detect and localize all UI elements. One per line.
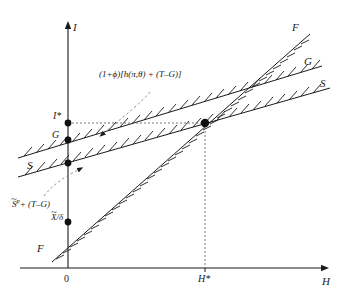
point-label-i-star: I*: [53, 111, 61, 121]
axis-x-tick-h-star: H*: [198, 274, 210, 284]
marker-equilibrium-point: [201, 119, 209, 127]
figure-canvas: I H 0 H* I* G F G S S F (1+ϕ)[h(π,θ) + (…: [0, 0, 345, 299]
annotation-lower-equation: ~Sp+ (T–G): [12, 198, 50, 209]
curve-f: [52, 34, 310, 262]
curve-label-f-left: F: [37, 243, 44, 254]
curve-label-s-left: S: [27, 160, 33, 171]
annotation-lower-suffix: + (T–G): [20, 199, 50, 209]
curve-label-f-right: F: [292, 22, 299, 33]
leader-lower-annotation: [44, 170, 78, 196]
point-label-g-intercept: G: [52, 130, 59, 140]
diagram-svg: [0, 0, 345, 299]
tilde-glyph: ~: [51, 209, 57, 217]
x-tilde-denominator: /δ: [57, 212, 64, 222]
axis-origin-label: 0: [64, 274, 69, 284]
marker-g-intercept: [65, 137, 72, 144]
annotation-x-over-delta: ~X/δ: [51, 213, 63, 222]
annotation-lower-s-tilde: ~S: [12, 200, 17, 209]
axis-y-label: I: [73, 22, 77, 33]
curve-label-s-right: S: [320, 78, 326, 89]
marker-f-intercept: [65, 219, 72, 226]
leader-upper-annotation: [104, 92, 150, 133]
axis-x-label: H: [322, 276, 330, 287]
marker-i-star-intercept: [65, 120, 72, 127]
tilde-glyph: ~: [11, 196, 17, 204]
curve-label-g-right: G: [304, 56, 312, 67]
x-tilde-wrap: ~X: [51, 213, 57, 222]
marker-s-intercept: [65, 160, 72, 167]
annotation-upper-equation: (1+ϕ)[h(π,θ) + (T–G)]: [99, 70, 181, 79]
